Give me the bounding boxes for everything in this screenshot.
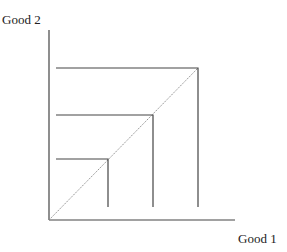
indifference-curve-outer [56, 68, 198, 207]
indifference-curves [56, 68, 198, 207]
x-axis-label: Good 1 [238, 232, 277, 245]
y-axis-label: Good 2 [2, 13, 41, 26]
diagonal-ray [49, 68, 198, 220]
diagram-canvas [0, 0, 287, 252]
indifference-curve-inner [56, 159, 108, 207]
